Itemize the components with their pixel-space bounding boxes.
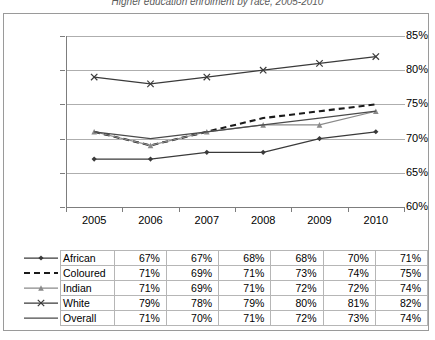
y-tick-mark [60, 173, 65, 174]
series-name-cell: Overall [61, 311, 115, 326]
data-point-african [92, 157, 97, 162]
value-cell: 79% [219, 296, 271, 311]
value-cell: 81% [323, 296, 375, 311]
value-cell: 71% [219, 281, 271, 296]
value-cell: 78% [166, 296, 218, 311]
value-cell: 73% [271, 266, 323, 281]
table-row: White79%78%79%80%81%82% [22, 296, 428, 311]
x-tick-label: 2009 [292, 214, 348, 226]
y-tick-mark [60, 36, 65, 37]
x-tick-mark [235, 207, 236, 212]
value-cell: 74% [375, 311, 427, 326]
x-tick-label: 2010 [348, 214, 404, 226]
legend-key-icon [22, 251, 61, 266]
data-point-african [261, 150, 266, 155]
x-tick-mark [404, 207, 405, 212]
series-name-cell: African [61, 251, 115, 266]
value-cell: 72% [271, 281, 323, 296]
x-tick-mark [66, 207, 67, 212]
x-tick-mark [122, 207, 123, 212]
series-name-cell: White [61, 296, 115, 311]
value-cell: 69% [166, 281, 218, 296]
value-cell: 71% [375, 251, 427, 266]
x-tick-label: 2007 [179, 214, 235, 226]
table-row: Coloured71%69%71%73%74%75% [22, 266, 428, 281]
value-cell: 72% [271, 311, 323, 326]
value-cell: 71% [219, 266, 271, 281]
legend-key-icon [22, 311, 61, 326]
data-point-african [373, 129, 378, 134]
x-tick-mark [291, 207, 292, 212]
value-cell: 67% [114, 251, 166, 266]
legend-key-icon [22, 296, 61, 311]
value-cell: 69% [166, 266, 218, 281]
plot-region: 60%65%70%75%80%85% 200520062007200820092… [4, 14, 428, 236]
value-cell: 74% [375, 281, 427, 296]
table-row: African67%67%68%68%70%71% [22, 251, 428, 266]
x-tick-mark [348, 207, 349, 212]
x-tick-label: 2006 [123, 214, 179, 226]
chart-screenshot: Higher education enrolment by race, 2005… [0, 0, 435, 340]
data-point-african [317, 136, 322, 141]
value-cell: 67% [166, 251, 218, 266]
value-cell: 71% [114, 281, 166, 296]
series-line-coloured [94, 104, 376, 145]
series-name-cell: Indian [61, 281, 115, 296]
data-point-african [148, 157, 153, 162]
value-cell: 71% [114, 311, 166, 326]
data-table-legend: African67%67%68%68%70%71%Coloured71%69%7… [22, 250, 428, 326]
series-line-white [94, 57, 376, 84]
table-row: Indian71%69%71%72%72%74% [22, 281, 428, 296]
value-cell: 80% [271, 296, 323, 311]
legend-key-icon [22, 281, 61, 296]
value-cell: 82% [375, 296, 427, 311]
value-cell: 79% [114, 296, 166, 311]
value-cell: 70% [323, 251, 375, 266]
value-cell: 75% [375, 266, 427, 281]
value-cell: 73% [323, 311, 375, 326]
value-cell: 68% [219, 251, 271, 266]
value-cell: 68% [271, 251, 323, 266]
y-tick-mark [60, 104, 65, 105]
y-tick-mark [60, 70, 65, 71]
x-tick-label: 2008 [235, 214, 291, 226]
x-tick-label: 2005 [66, 214, 122, 226]
value-cell: 71% [114, 266, 166, 281]
series-name-cell: Coloured [61, 266, 115, 281]
x-tick-mark [179, 207, 180, 212]
value-cell: 71% [219, 311, 271, 326]
legend-key-icon [22, 266, 61, 281]
value-cell: 70% [166, 311, 218, 326]
y-tick-mark [60, 139, 65, 140]
chart-title-clipped: Higher education enrolment by race, 2005… [0, 0, 435, 8]
y-tick-mark [60, 207, 65, 208]
series-lines [66, 36, 404, 207]
data-point-african [204, 150, 209, 155]
value-cell: 72% [323, 281, 375, 296]
series-line-african [94, 132, 376, 159]
chart-frame: 60%65%70%75%80%85% 200520062007200820092… [3, 13, 429, 331]
value-cell: 74% [323, 266, 375, 281]
table-row: Overall71%70%71%72%73%74% [22, 311, 428, 326]
